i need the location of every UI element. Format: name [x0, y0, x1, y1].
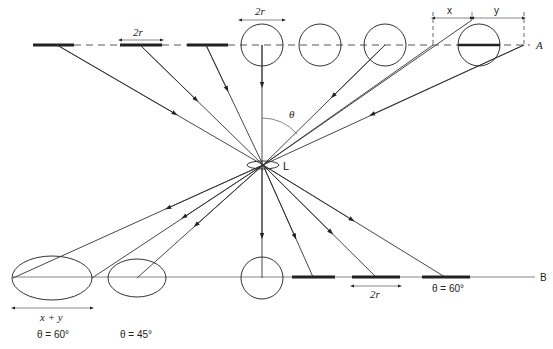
svg-text:2r: 2r [133, 26, 144, 38]
theta-angle: θ [262, 108, 297, 134]
dimension-2r-bottom: 2r [354, 286, 398, 300]
svg-text:y: y [494, 5, 499, 16]
plane-b-label: B [540, 272, 547, 283]
svg-text:x + y: x + y [39, 311, 63, 323]
dimension-x-plus-y: x + y [15, 308, 90, 323]
svg-text:θ: θ [289, 108, 295, 120]
bottom-images [12, 256, 470, 300]
lens-label: L [283, 160, 289, 172]
theta-60-label-right: θ = 60° [432, 283, 464, 294]
dimension-x-y: x y [433, 5, 524, 45]
optical-diagram: A 2r 2r x y [0, 0, 553, 349]
dimension-2r-top-circle: 2r [242, 5, 282, 20]
svg-text:2r: 2r [255, 5, 266, 17]
svg-text:x: x [447, 5, 452, 16]
image-ellipse-60 [12, 256, 92, 300]
theta-60-label-left: θ = 60° [37, 329, 69, 340]
dimension-2r-top-left: 2r [122, 26, 160, 40]
incoming-rays [57, 20, 524, 165]
svg-text:2r: 2r [370, 288, 381, 300]
theta-45-label: θ = 45° [120, 329, 152, 340]
plane-a-label: A [535, 39, 543, 51]
